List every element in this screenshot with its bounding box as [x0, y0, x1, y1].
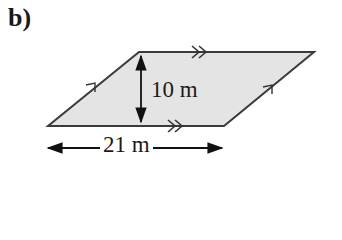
height-label: 10 m — [151, 77, 198, 103]
base-label: 21 m — [100, 132, 153, 158]
